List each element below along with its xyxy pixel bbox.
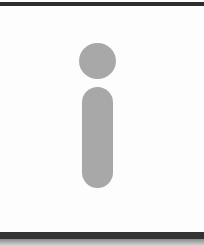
info-icon-stem	[82, 87, 113, 188]
bottom-border	[0, 232, 204, 239]
info-icon-dot	[79, 43, 116, 79]
bottom-shadow	[0, 239, 204, 246]
info-card	[0, 0, 204, 246]
top-border	[0, 2, 204, 6]
